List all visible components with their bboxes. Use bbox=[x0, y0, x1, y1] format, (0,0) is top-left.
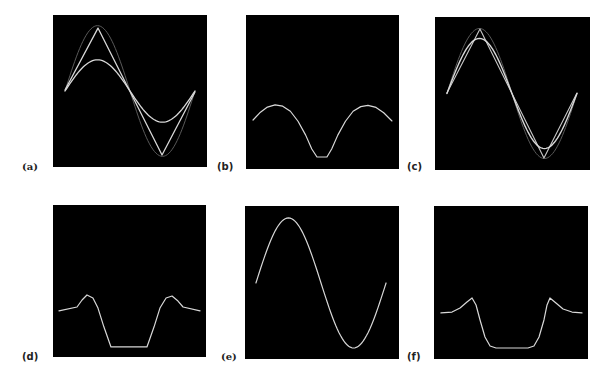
panel-d-svg bbox=[53, 205, 206, 357]
panel-a-plot bbox=[53, 15, 207, 167]
series-error-curve bbox=[253, 105, 392, 157]
panel-a-svg bbox=[53, 15, 207, 167]
panel-b-label: (b) bbox=[217, 162, 233, 172]
panel-c-svg bbox=[435, 17, 590, 170]
panel-d-plot bbox=[53, 205, 206, 357]
panel-d-label: (d) bbox=[22, 352, 38, 362]
panel-e-plot bbox=[245, 206, 399, 359]
panel-b-plot bbox=[246, 15, 399, 169]
series-smoothed-approximation bbox=[65, 60, 195, 122]
panel-c-label: (c) bbox=[407, 162, 422, 172]
series-sine bbox=[256, 218, 386, 348]
panel-a-label: (a) bbox=[22, 162, 38, 172]
panel-b-svg bbox=[246, 15, 399, 169]
panel-f-plot bbox=[434, 206, 588, 359]
series-error-curve bbox=[441, 298, 582, 348]
panel-e-label: (e) bbox=[221, 352, 237, 362]
panel-f-label: (f) bbox=[407, 352, 421, 362]
panel-f-svg bbox=[434, 206, 588, 359]
panel-e-svg bbox=[245, 206, 399, 359]
series-error-curve bbox=[59, 295, 200, 347]
panel-c-plot bbox=[435, 17, 590, 170]
